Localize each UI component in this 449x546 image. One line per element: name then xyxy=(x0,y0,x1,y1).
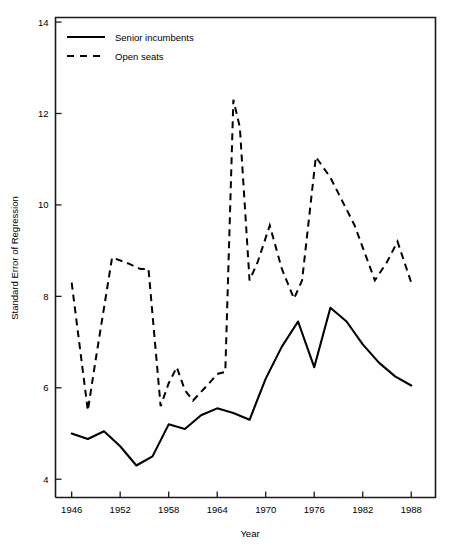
y-tick-label: 4 xyxy=(43,474,48,485)
x-tick-label: 1964 xyxy=(207,504,228,515)
y-tick-label: 8 xyxy=(43,291,48,302)
x-tick-label: 1988 xyxy=(401,504,422,515)
x-tick-label: 1952 xyxy=(110,504,131,515)
y-tick-label: 12 xyxy=(38,108,49,119)
x-tick-label: 1982 xyxy=(352,504,373,515)
x-axis-title: Year xyxy=(240,528,259,539)
x-tick-label: 1946 xyxy=(61,504,82,515)
chart-figure: 19461952195819641970197619821988 4681012… xyxy=(0,0,449,546)
x-tick-label: 1976 xyxy=(304,504,325,515)
legend-label-open-seats: Open seats xyxy=(115,51,164,62)
x-tick-label: 1958 xyxy=(158,504,179,515)
y-tick-label: 6 xyxy=(43,382,48,393)
legend-label-senior-incumbents: Senior incumbents xyxy=(115,32,194,43)
y-tick-label: 14 xyxy=(38,17,49,28)
x-tick-label: 1970 xyxy=(255,504,276,515)
chart-background xyxy=(0,0,449,546)
y-tick-label: 10 xyxy=(38,199,49,210)
y-axis-title: Standard Error of Regression xyxy=(9,196,20,320)
